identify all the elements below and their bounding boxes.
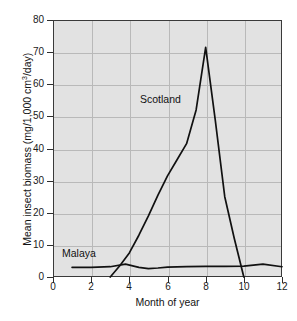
y-tick-label: 40 xyxy=(33,144,44,154)
y-axis-title-main: Mean insect biomass (mg/1,000 cm xyxy=(21,80,33,246)
series-label-scotland: Scotland xyxy=(140,94,181,105)
y-tick-label: 50 xyxy=(33,111,44,121)
x-tick-label: 2 xyxy=(79,281,103,292)
y-tick-label: 20 xyxy=(33,208,44,218)
series-label-malaya: Malaya xyxy=(62,248,96,259)
x-axis-title: Month of year xyxy=(53,296,282,308)
y-axis-title-superscript: 3 xyxy=(21,76,28,80)
y-tick-label: 10 xyxy=(33,240,44,250)
x-tick-label: 10 xyxy=(232,281,256,292)
y-tick-label: 60 xyxy=(33,79,44,89)
x-tick-label: 4 xyxy=(117,281,141,292)
series-line-scotland xyxy=(110,47,244,277)
series-lines xyxy=(53,20,282,277)
y-axis-title-tail: /day) xyxy=(21,53,33,76)
y-axis-title: Mean insect biomass (mg/1,000 cm3/day) xyxy=(19,30,34,268)
x-tick-label: 6 xyxy=(156,281,180,292)
series-line-malaya xyxy=(72,264,282,269)
x-tick-label: 12 xyxy=(270,281,294,292)
y-tick-label: 30 xyxy=(33,176,44,186)
x-tick-label: 0 xyxy=(41,281,65,292)
insect-biomass-chart: 01020304050607080 024681012 Scotland Mal… xyxy=(0,0,297,321)
x-tick-label: 8 xyxy=(194,281,218,292)
y-tick-label: 70 xyxy=(33,47,44,57)
y-tick-label: 80 xyxy=(33,15,44,25)
